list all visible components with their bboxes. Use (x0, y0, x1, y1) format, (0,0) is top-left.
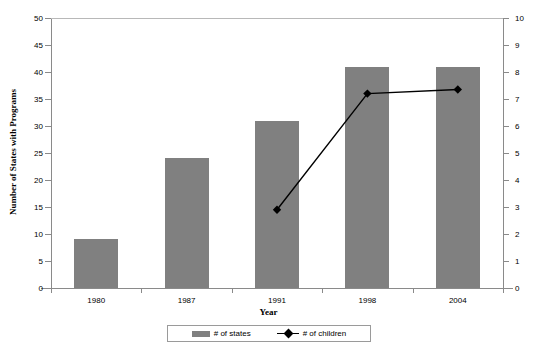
y-right-tick-6 (503, 126, 509, 127)
y-left-tick-50 (45, 18, 51, 19)
y-right-tick-4 (503, 180, 509, 181)
y-right-tick-10 (503, 18, 509, 19)
chart-legend: # of states # of children (167, 325, 371, 342)
x-ticklabel-1998: 1998 (358, 296, 376, 305)
bar-1980 (74, 239, 118, 288)
legend-label-states: # of states (214, 329, 251, 338)
y-right-tick-3 (503, 207, 509, 208)
y-axis-left-ticklabels: 05101520253035404550 (0, 0, 43, 353)
bar-1998 (345, 67, 389, 288)
x-ticklabel-1987: 1987 (178, 296, 196, 305)
y-right-ticklabel-5: 5 (511, 149, 537, 158)
legend-label-children: # of children (303, 329, 347, 338)
plot-area (51, 18, 503, 288)
y-left-tick-10 (45, 234, 51, 235)
y-left-tick-20 (45, 180, 51, 181)
y-right-ticklabel-4: 4 (511, 176, 537, 185)
bar-1991 (255, 121, 299, 288)
y-left-ticklabel-0: 0 (3, 284, 43, 293)
chart-container: Number of States with Programs Year 0510… (0, 0, 537, 353)
y-right-ticklabel-2: 2 (511, 230, 537, 239)
y-left-ticklabel-30: 30 (3, 122, 43, 131)
y-left-ticklabel-5: 5 (3, 257, 43, 266)
y-left-ticklabel-45: 45 (3, 41, 43, 50)
y-right-ticklabel-8: 8 (511, 68, 537, 77)
bar-2004 (436, 67, 480, 288)
y-left-ticklabel-20: 20 (3, 176, 43, 185)
x-ticklabel-2004: 2004 (449, 296, 467, 305)
y-right-tick-1 (503, 261, 509, 262)
bar-1987 (165, 158, 209, 288)
line-diamond-swatch-icon (277, 330, 299, 338)
y-right-ticklabel-7: 7 (511, 95, 537, 104)
legend-entry-states: # of states (192, 329, 251, 338)
y-right-ticklabel-0: 0 (511, 284, 537, 293)
x-ticklabel-1991: 1991 (268, 296, 286, 305)
y-left-tick-15 (45, 207, 51, 208)
y-left-ticklabel-50: 50 (3, 14, 43, 23)
y-right-ticklabel-3: 3 (511, 203, 537, 212)
y-left-tick-25 (45, 153, 51, 154)
y-right-tick-8 (503, 72, 509, 73)
bar-swatch-icon (192, 331, 210, 337)
x-ticklabel-1980: 1980 (87, 296, 105, 305)
y-left-ticklabel-35: 35 (3, 95, 43, 104)
y-left-tick-30 (45, 126, 51, 127)
y-right-tick-2 (503, 234, 509, 235)
y-right-tick-7 (503, 99, 509, 100)
x-tick-1 (141, 288, 142, 293)
x-tick-0 (51, 288, 52, 293)
y-right-ticklabel-9: 9 (511, 41, 537, 50)
x-tick-5 (503, 288, 504, 293)
y-left-tick-35 (45, 99, 51, 100)
y-right-tick-5 (503, 153, 509, 154)
x-axis-line (41, 288, 513, 289)
y-right-ticklabel-10: 10 (511, 14, 537, 23)
y-left-ticklabel-40: 40 (3, 68, 43, 77)
y-left-ticklabel-10: 10 (3, 230, 43, 239)
y-left-ticklabel-25: 25 (3, 149, 43, 158)
y-left-tick-40 (45, 72, 51, 73)
top-gridline (51, 18, 503, 19)
y-axis-right-ticklabels: 012345678910 (511, 0, 537, 353)
y-left-tick-5 (45, 261, 51, 262)
y-left-tick-45 (45, 45, 51, 46)
y-right-ticklabel-6: 6 (511, 122, 537, 131)
x-tick-3 (322, 288, 323, 293)
y-right-tick-9 (503, 45, 509, 46)
x-axis-title: Year (0, 307, 537, 317)
legend-entry-children: # of children (277, 329, 347, 338)
y-left-ticklabel-15: 15 (3, 203, 43, 212)
y-right-ticklabel-1: 1 (511, 257, 537, 266)
x-tick-2 (232, 288, 233, 293)
x-tick-4 (413, 288, 414, 293)
